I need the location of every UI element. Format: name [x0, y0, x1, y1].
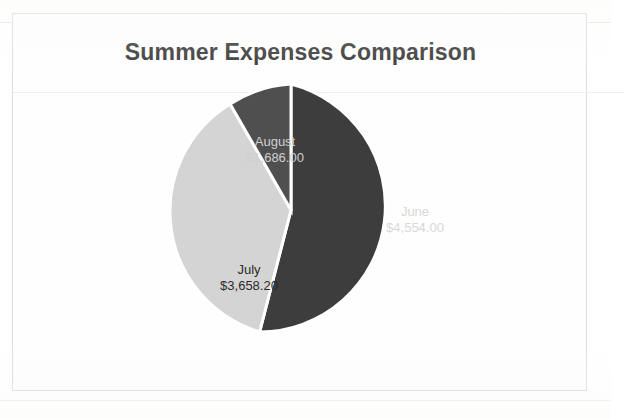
pie-label-july-name: July [189, 262, 309, 278]
pie-label-june: June $4,554.00 [355, 204, 475, 237]
pie-label-june-name: June [355, 204, 475, 220]
chart-frame: Summer Expenses Comparison June $4,554.0… [12, 13, 587, 391]
pie-label-june-value: $4,554.00 [355, 220, 475, 236]
pie-chart: June $4,554.00 July $3,658.20 August $1,… [157, 76, 425, 344]
pie-label-august-name: August [215, 134, 335, 150]
chart-title: Summer Expenses Comparison [13, 39, 588, 66]
pie-label-august: August $1,686.00 [215, 134, 335, 167]
scan-artifact-line-bottom [0, 400, 611, 401]
pie-label-august-value: $1,686.00 [215, 150, 335, 166]
pie-label-july-value: $3,658.20 [189, 278, 309, 294]
pie-label-july: July $3,658.20 [189, 262, 309, 295]
